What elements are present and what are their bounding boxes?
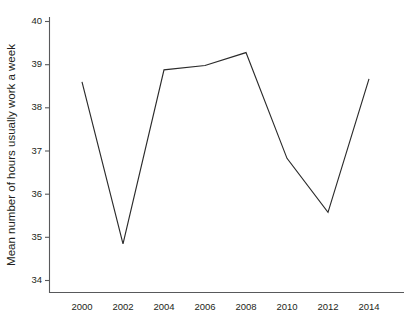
x-tick-label-2008: 2008 bbox=[235, 301, 256, 312]
chart-canvas: Mean number of hours usually work a week… bbox=[0, 0, 412, 328]
x-tick-label-2010: 2010 bbox=[276, 301, 297, 312]
y-tick-label-34: 34 bbox=[31, 274, 42, 285]
y-tick-label-36: 36 bbox=[31, 188, 42, 199]
y-tick-label-35: 35 bbox=[31, 231, 42, 242]
y-tick-label-37: 37 bbox=[31, 145, 42, 156]
x-axis-tick-labels: 2000 2002 2004 2006 2008 2010 2012 2014 bbox=[71, 301, 379, 312]
y-axis-title: Mean number of hours usually work a week bbox=[5, 44, 17, 266]
x-tick-label-2000: 2000 bbox=[71, 301, 92, 312]
data-series-line bbox=[82, 53, 369, 244]
y-axis-ticks bbox=[45, 22, 50, 281]
x-tick-label-2012: 2012 bbox=[317, 301, 338, 312]
x-tick-label-2002: 2002 bbox=[112, 301, 133, 312]
y-tick-label-40: 40 bbox=[31, 15, 42, 26]
y-tick-label-39: 39 bbox=[31, 58, 42, 69]
y-tick-label-38: 38 bbox=[31, 101, 42, 112]
x-tick-label-2004: 2004 bbox=[153, 301, 174, 312]
x-tick-label-2014: 2014 bbox=[358, 301, 379, 312]
x-tick-label-2006: 2006 bbox=[194, 301, 215, 312]
line-chart: Mean number of hours usually work a week… bbox=[0, 0, 412, 328]
y-axis-tick-labels: 40 39 38 37 36 35 34 bbox=[31, 15, 42, 285]
